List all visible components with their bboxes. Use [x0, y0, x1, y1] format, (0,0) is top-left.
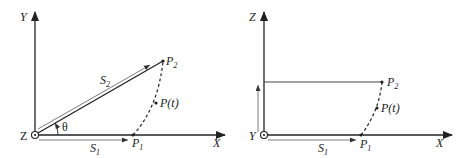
left-label-s1: S1	[90, 141, 100, 157]
left-label-p2: P2	[165, 54, 177, 70]
left-x-axis-label: X	[212, 136, 221, 150]
diagram-canvas: Y X Z θ S2 S1 P2 P1 P(t) Z X Y	[0, 0, 470, 158]
left-point-pt	[154, 101, 157, 104]
left-theta-arc	[55, 123, 58, 135]
left-panel: Y X Z θ S2 S1 P2 P1 P(t)	[20, 10, 225, 157]
right-label-s1: S1	[318, 141, 328, 157]
left-y-axis-label: Y	[20, 10, 28, 24]
right-y-axis-label: Y	[249, 129, 257, 143]
left-line-origin-p2	[38, 61, 163, 133]
right-x-axis-label: X	[435, 136, 444, 150]
left-s2-vector-arrow	[38, 65, 150, 129]
left-label-p1: P1	[131, 136, 143, 152]
right-y-out-of-page-icon	[261, 132, 268, 139]
right-label-pt: P(t)	[380, 101, 400, 115]
right-label-p1: P1	[359, 137, 371, 153]
left-label-pt: P(t)	[159, 96, 179, 110]
right-dashed-trajectory	[361, 82, 382, 135]
left-z-out-of-page-icon	[32, 132, 39, 139]
left-z-axis-label: Z	[20, 129, 27, 143]
theta-label: θ	[62, 120, 68, 134]
right-label-p2: P2	[386, 75, 398, 91]
right-z-axis-label: Z	[249, 10, 256, 24]
right-point-p2	[380, 80, 383, 83]
left-point-p2	[161, 59, 164, 62]
right-panel: Z X Y S1 P2 P1 P(t)	[249, 10, 452, 157]
right-point-pt	[375, 106, 378, 109]
label-s2: S2	[100, 73, 110, 89]
